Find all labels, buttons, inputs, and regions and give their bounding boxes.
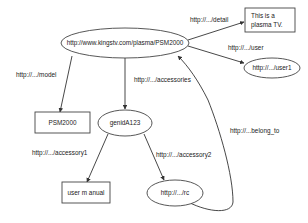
node-detail-line2: plasma TV. [251,21,283,29]
edge-accessory1: http://.../accessory1 [32,134,108,182]
node-rc-label: http://.../rc [161,189,190,197]
node-genid: genidA123 [98,110,152,136]
edge-label-user: http://.../user [228,44,264,52]
node-main-label: http://www.kingstv.com/plasma/PSM2000 [67,39,184,47]
node-model: PSM2000 [35,112,90,133]
node-manual: user m anual [62,182,110,203]
edge-accessory2: http://.../accessory2 [144,134,212,180]
node-detail: This is a plasma TV. [245,8,295,32]
node-manual-label: user m anual [68,189,105,196]
edge-model: http://.../model [16,56,72,112]
node-main: http://www.kingstv.com/plasma/PSM2000 [61,28,189,58]
edge-label-belong-to: http://...belong_to [230,127,280,135]
edge-label-model: http://.../model [16,71,57,79]
edge-detail: http://.../detail [188,16,244,40]
node-model-label: PSM2000 [48,119,77,126]
edge-accessories: http://.../accessories [125,57,191,109]
rdf-graph-diagram: http://.../detail http://.../user http:/… [0,0,308,223]
edge-label-accessories: http://.../accessories [134,76,191,84]
node-user1: http://.../user1 [244,58,300,78]
edge-label-accessory2: http://.../accessory2 [156,151,212,159]
node-genid-label: genidA123 [110,119,141,127]
node-rc: http://.../rc [147,180,203,206]
node-user1-label: http://.../user1 [252,64,292,72]
edge-user: http://.../user [188,44,264,63]
edge-label-accessory1: http://.../accessory1 [32,149,88,157]
node-detail-line1: This is a [251,12,275,19]
edge-label-detail: http://.../detail [190,16,228,24]
